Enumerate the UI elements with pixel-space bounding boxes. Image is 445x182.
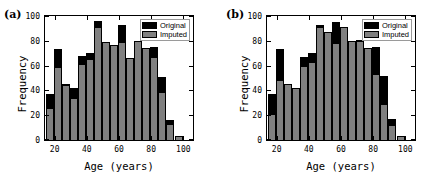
x-axis-tick-label: 40	[304, 145, 314, 154]
histogram-bar	[364, 48, 372, 140]
x-axis-tick	[341, 16, 342, 20]
histogram-bar	[372, 47, 380, 140]
figure-histograms: (a) Original Imputed 2040608010002040608…	[0, 0, 445, 182]
bar-segment-imputed	[159, 92, 165, 140]
y-axis-tick	[189, 66, 193, 67]
legend-swatch-original-icon	[142, 22, 157, 29]
bar-segment-imputed	[269, 114, 275, 140]
x-axis-tick-label: 20	[50, 145, 60, 154]
bar-segment-imputed	[398, 136, 404, 140]
legend-item-original: Original	[142, 21, 187, 30]
histogram-bar	[308, 53, 316, 140]
x-axis-tick	[405, 136, 406, 140]
x-axis-tick	[309, 136, 310, 140]
x-axis-tick	[87, 136, 88, 140]
histogram-bar	[78, 56, 86, 140]
legend-item-original: Original	[364, 21, 409, 30]
y-axis-tick-label: 100	[244, 12, 262, 21]
histogram-bar	[142, 48, 150, 140]
x-axis-tick	[341, 136, 342, 140]
y-axis-tick	[45, 90, 49, 91]
x-axis-tick	[277, 136, 278, 140]
y-axis-tick	[45, 66, 49, 67]
y-axis-tick	[267, 16, 271, 17]
histogram-bar	[276, 49, 284, 140]
legend-swatch-original-icon	[364, 22, 379, 29]
histogram-bar	[397, 136, 405, 140]
histogram-bar	[118, 25, 126, 140]
bar-segment-imputed	[55, 67, 61, 140]
histogram-bar	[268, 94, 276, 140]
bar-segment-imputed	[317, 27, 323, 140]
bar-segment-imputed	[301, 66, 307, 140]
legend-item-imputed: Imputed	[364, 30, 409, 39]
y-axis-tick	[189, 115, 193, 116]
histogram-bar	[94, 21, 102, 140]
x-axis-tick	[55, 16, 56, 20]
legend-label-original: Original	[382, 21, 408, 30]
x-axis-tick-label: 80	[368, 145, 378, 154]
y-axis-tick	[45, 115, 49, 116]
x-axis-tick	[277, 16, 278, 20]
histogram-bar	[102, 42, 110, 140]
histogram-bar	[150, 47, 158, 140]
panel-a: (a) Original Imputed 2040608010002040608…	[0, 0, 222, 182]
bar-segment-imputed	[47, 108, 53, 140]
panel-a-legend: Original Imputed	[140, 19, 190, 41]
panel-b-legend: Original Imputed	[362, 19, 412, 41]
x-axis-tick	[87, 16, 88, 20]
y-axis-tick	[411, 16, 415, 17]
panel-a-plot-area: Original Imputed	[44, 15, 194, 141]
y-axis-tick	[411, 90, 415, 91]
histogram-bar	[158, 77, 166, 140]
histogram-bar	[356, 40, 364, 140]
bar-segment-imputed	[63, 85, 69, 140]
histogram-bar	[348, 41, 356, 140]
panel-a-yaxis-title: Frequency	[16, 34, 28, 134]
y-axis-tick	[267, 90, 271, 91]
bar-segment-imputed	[143, 48, 149, 140]
x-axis-tick	[151, 136, 152, 140]
histogram-bar	[166, 120, 174, 140]
bar-segment-imputed	[127, 58, 133, 140]
bar-segment-imputed	[71, 98, 77, 140]
y-axis-tick	[189, 90, 193, 91]
y-axis-tick-label: 0	[22, 136, 40, 145]
histogram-bar	[324, 32, 332, 140]
panel-b-yaxis-title: Frequency	[238, 34, 250, 134]
bar-segment-imputed	[103, 42, 109, 140]
bar-segment-imputed	[95, 27, 101, 140]
bar-segment-imputed	[389, 125, 395, 140]
y-axis-tick	[45, 139, 49, 140]
histogram-bar	[292, 88, 300, 140]
histogram-bar	[62, 84, 70, 140]
bar-segment-imputed	[357, 41, 363, 140]
x-axis-tick-label: 20	[272, 145, 282, 154]
histogram-bar	[86, 53, 94, 140]
x-axis-tick-label: 60	[114, 145, 124, 154]
panel-b-plot-area: Original Imputed	[266, 15, 416, 141]
y-axis-tick	[267, 41, 271, 42]
y-axis-tick-label: 100	[22, 12, 40, 21]
bar-segment-imputed	[176, 136, 182, 140]
bar-segment-imputed	[341, 27, 347, 140]
y-axis-tick	[45, 16, 49, 17]
bar-segment-imputed	[277, 80, 283, 140]
bar-segment-imputed	[349, 41, 355, 140]
x-axis-tick-label: 60	[336, 145, 346, 154]
x-axis-tick	[183, 136, 184, 140]
panel-a-xaxis-title: Age (years)	[44, 160, 194, 172]
bar-segment-imputed	[373, 74, 379, 140]
y-axis-tick	[267, 139, 271, 140]
legend-item-imputed: Imputed	[142, 30, 187, 39]
x-axis-tick	[309, 16, 310, 20]
x-axis-tick-label: 100	[176, 145, 190, 154]
x-axis-tick-label: 40	[82, 145, 92, 154]
bar-segment-imputed	[151, 57, 157, 140]
x-axis-tick	[119, 16, 120, 20]
x-axis-tick	[55, 136, 56, 140]
y-axis-tick	[267, 115, 271, 116]
panel-b-label: (b)	[226, 8, 244, 21]
bar-segment-imputed	[135, 41, 141, 140]
y-axis-tick	[411, 66, 415, 67]
